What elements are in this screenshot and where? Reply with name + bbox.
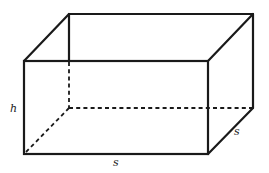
prism-diagram: h s s <box>0 0 269 173</box>
hidden-depth-edge <box>26 108 69 152</box>
top-right-depth-edge <box>208 14 253 61</box>
depth-label: s <box>234 125 240 138</box>
width-label: s <box>113 156 119 169</box>
top-left-depth-edge <box>24 14 69 61</box>
height-label: h <box>10 102 17 115</box>
bottom-right-depth-edge <box>208 108 253 154</box>
